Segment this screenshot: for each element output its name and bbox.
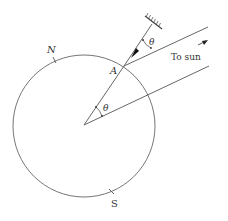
- south-label: S: [111, 198, 118, 209]
- south-tick: [109, 189, 114, 194]
- earth-circle: [13, 55, 155, 197]
- theta-arc-center: [96, 107, 102, 116]
- theta-label-center: θ: [103, 103, 109, 113]
- to-sun-arrow-icon: [202, 40, 208, 45]
- point-a-label: A: [109, 65, 117, 76]
- to-sun-label: To sun: [171, 52, 201, 62]
- mirror-hatch: [146, 13, 161, 27]
- radius-line: [84, 66, 124, 125]
- theta-label-top: θ: [149, 37, 155, 47]
- north-label: N: [46, 44, 57, 55]
- earth-mirror-diagram: N S To sun θ θ A: [0, 0, 228, 221]
